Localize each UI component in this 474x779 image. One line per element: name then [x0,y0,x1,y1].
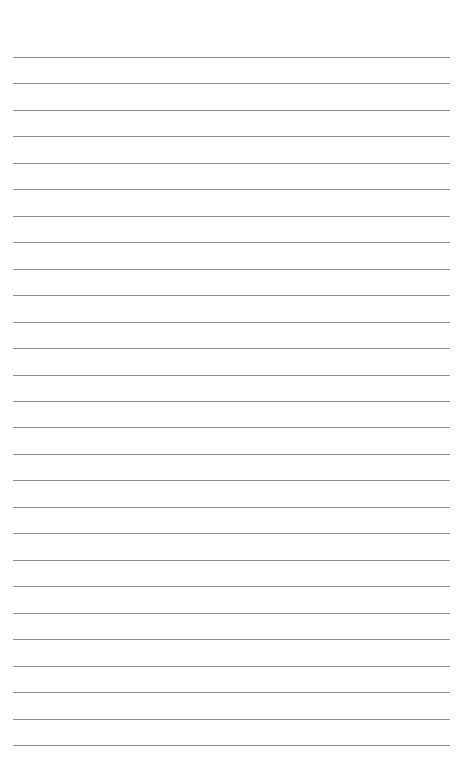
ruled-line [13,507,450,508]
ruled-line [13,613,450,614]
ruled-line [13,666,450,667]
ruled-line [13,110,450,111]
ruled-line [13,639,450,640]
ruled-line [13,83,450,84]
ruled-line [13,427,450,428]
ruled-line [13,454,450,455]
ruled-line [13,375,450,376]
ruled-line [13,269,450,270]
ruled-line [13,136,450,137]
ruled-line [13,348,450,349]
ruled-line [13,719,450,720]
ruled-line [13,745,450,746]
ruled-line [13,295,450,296]
ruled-line [13,163,450,164]
ruled-line [13,401,450,402]
ruled-line [13,586,450,587]
ruled-line [13,692,450,693]
ruled-line [13,189,450,190]
ruled-line [13,216,450,217]
ruled-line [13,533,450,534]
lined-paper-page [0,0,474,779]
ruled-line [13,560,450,561]
ruled-line [13,242,450,243]
ruled-line [13,480,450,481]
ruled-line [13,57,450,58]
ruled-line [13,322,450,323]
